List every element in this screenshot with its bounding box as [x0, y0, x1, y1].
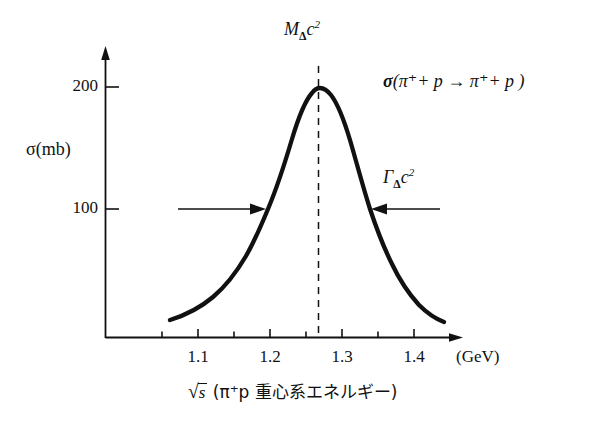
width-c: c	[401, 167, 409, 187]
x-axis-unit-label: (GeV)	[456, 348, 499, 365]
x-axis-caption-text: (π⁺p 重心系エネルギー)	[213, 382, 398, 402]
reaction-formula-body: (π⁺+ p → π⁺+ p )	[393, 71, 525, 91]
figure-root: MΔc2 σ(π⁺+ p → π⁺+ p ) ΓΔc2 σ(mb) 200 10…	[0, 0, 589, 425]
width-arrow-right	[371, 204, 440, 215]
x-tick-marks	[162, 329, 414, 338]
reaction-sigma-symbol: σ	[383, 71, 393, 91]
peak-mass-label: MΔc2	[284, 20, 320, 38]
y-tick-label-100: 100	[52, 199, 98, 216]
width-arrow-left	[178, 204, 266, 215]
width-label: ΓΔc2	[383, 168, 414, 186]
resonance-curve	[170, 88, 444, 322]
y-tick-marks	[106, 87, 120, 209]
width-symbol: Γ	[383, 167, 393, 187]
y-axis	[101, 46, 110, 338]
x-tick-label-1-1: 1.1	[173, 348, 223, 365]
x-tick-label-1-3: 1.3	[317, 348, 367, 365]
y-tick-label-200: 200	[52, 77, 98, 94]
peak-mass-symbol: M	[284, 19, 299, 39]
x-tick-label-1-2: 1.2	[245, 348, 295, 365]
sqrt-s-math: √s	[186, 382, 207, 402]
y-axis-title: σ(mb)	[26, 140, 71, 158]
peak-mass-exponent: 2	[314, 18, 320, 30]
width-exponent: 2	[409, 166, 415, 178]
x-axis-caption: √s (π⁺p 重心系エネルギー)	[186, 382, 397, 402]
x-axis	[106, 333, 464, 342]
x-tick-label-1-4: 1.4	[389, 348, 439, 365]
sqrt-s-radicand: s	[198, 383, 208, 401]
reaction-formula: σ(π⁺+ p → π⁺+ p )	[383, 72, 525, 90]
width-subscript: Δ	[393, 177, 400, 191]
